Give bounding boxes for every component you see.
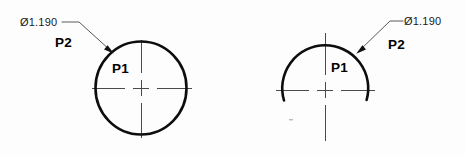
drawing-canvas: Ø1.190 P2 P1 xyxy=(0,0,465,155)
right-dimension-text: Ø1.190 xyxy=(404,15,441,27)
scan-speck xyxy=(289,119,293,120)
figure-right: Ø1.190 P2 P1 xyxy=(276,15,441,141)
left-p2-label: P2 xyxy=(55,35,72,50)
right-leader-arrowhead xyxy=(356,45,366,54)
figure-left: Ø1.190 P2 P1 xyxy=(20,16,192,138)
right-p1-label: P1 xyxy=(331,60,348,75)
left-p1-label: P1 xyxy=(112,61,129,76)
technical-drawing-svg: Ø1.190 P2 P1 xyxy=(0,0,465,155)
left-dimension-text: Ø1.190 xyxy=(20,16,57,28)
right-p2-label: P2 xyxy=(388,37,405,52)
